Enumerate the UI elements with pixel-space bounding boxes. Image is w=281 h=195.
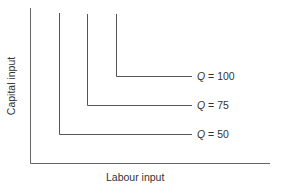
isoquant-q100 <box>117 14 193 77</box>
q-value: 100 <box>217 70 235 82</box>
isoquant-q50 <box>60 13 193 135</box>
equals: = <box>208 99 214 111</box>
isoquant-diagram <box>0 0 281 195</box>
equals: = <box>208 70 214 82</box>
x-axis-label: Labour input <box>106 172 164 183</box>
q-value: 75 <box>217 99 229 111</box>
isoquant-label-q100: Q = 100 <box>197 71 235 82</box>
q-symbol: Q <box>197 99 205 111</box>
q-symbol: Q <box>197 70 205 82</box>
q-value: 50 <box>217 128 229 140</box>
isoquant-lines <box>60 13 193 135</box>
isoquant-label-q50: Q = 50 <box>197 129 229 140</box>
equals: = <box>208 128 214 140</box>
isoquant-q75 <box>88 14 193 106</box>
y-axis-label: Capital input <box>5 57 17 115</box>
axes <box>31 8 271 164</box>
q-symbol: Q <box>197 128 205 140</box>
isoquant-label-q75: Q = 75 <box>197 100 229 111</box>
